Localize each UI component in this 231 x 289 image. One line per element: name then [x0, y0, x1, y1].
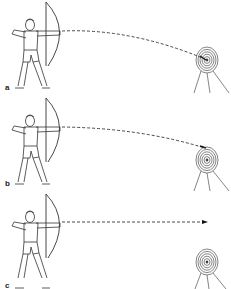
panel-a: a — [0, 0, 231, 95]
arrow-trajectory — [62, 31, 205, 59]
panel-b: b — [0, 96, 231, 191]
bow — [46, 98, 60, 162]
target — [195, 249, 226, 289]
target — [194, 147, 229, 191]
arrow-trajectory — [62, 127, 205, 148]
archer-figure — [12, 19, 60, 88]
panel-label: c — [5, 282, 9, 289]
archer-diagram-c — [0, 192, 231, 289]
archer-diagram-a — [0, 0, 231, 95]
bow — [46, 194, 60, 258]
bow — [46, 2, 60, 66]
target — [194, 47, 229, 93]
archer-figure — [12, 115, 60, 184]
arrowhead-icon — [202, 220, 208, 224]
panel-label: b — [5, 180, 10, 188]
panel-label: a — [5, 84, 9, 92]
panel-c: c — [0, 192, 231, 289]
archer-diagram-b — [0, 96, 231, 191]
